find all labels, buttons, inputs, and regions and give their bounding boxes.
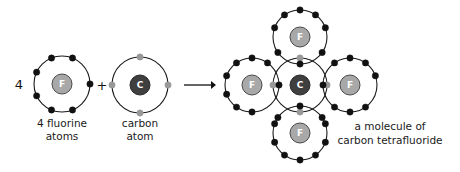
product-fluorine-electron-bottom [322, 121, 328, 127]
product-fluorine-electron-bottom [271, 121, 277, 127]
fluorine-caption-line2: atoms [46, 130, 79, 142]
product-fluorine-electron-right [362, 60, 368, 66]
shared-fluorine-electron-bottom [297, 103, 303, 109]
fluorine-nucleus-label: F [59, 79, 65, 89]
product-fluorine-electron-right [331, 60, 337, 66]
carbon-caption-line2: atom [126, 130, 153, 142]
fluorine-valence-electron [87, 81, 93, 87]
product-caption-line2: carbon tetrafluoride [337, 134, 442, 146]
carbon-valence-electron [137, 54, 143, 60]
fluorine-nucleus-label: F [249, 80, 255, 90]
chemistry-diagram-svg: 4 F 4 fluorine atoms + C carbon atom FFF… [0, 0, 460, 172]
fluorine-nucleus-label: F [297, 128, 303, 138]
carbon-valence-electron [137, 110, 143, 116]
shared-carbon-electron [270, 82, 276, 88]
product-fluorine-electron-bottom [297, 157, 303, 163]
carbon-nucleus-label: C [297, 80, 304, 90]
carbon-valence-electron [165, 82, 171, 88]
product-fluorine-electron-left [223, 91, 229, 97]
product-fluorine-electron-top [312, 12, 318, 18]
shared-fluorine-electron-top [297, 61, 303, 67]
plus-sign: + [97, 78, 108, 93]
product-fluorine-electron-left [233, 60, 239, 66]
product-fluorine-electron-left [249, 55, 255, 61]
shared-carbon-electron [297, 109, 303, 115]
product-fluorine-electron-left [264, 60, 270, 66]
product-fluorine-electron-top [275, 49, 281, 55]
product-fluorine-electron-right [362, 104, 368, 110]
diagram-canvas: 4 F 4 fluorine atoms + C carbon atom FFF… [0, 0, 460, 172]
fluorine-nucleus-label: F [297, 32, 303, 42]
product-fluorine-electron-top [322, 25, 328, 31]
product-fluorine-electron-bottom [312, 152, 318, 158]
shared-fluorine-electron-left [276, 82, 282, 88]
fluorine-nucleus-label: F [347, 80, 353, 90]
product-fluorine-electron-top [271, 25, 277, 31]
fluorine-valence-electron [69, 55, 75, 61]
product-fluorine-electron-bottom [322, 139, 328, 145]
fluorine-valence-electron [48, 107, 54, 113]
fluorine-valence-electron [33, 93, 39, 99]
fluorine-valence-electron [48, 55, 54, 61]
fluorine-valence-electron [69, 107, 75, 113]
product-fluorine-electron-bottom [319, 114, 325, 120]
product-fluorine-electron-left [249, 109, 255, 115]
product-fluorine-electron-left [233, 104, 239, 110]
shared-fluorine-electron-right [320, 82, 326, 88]
product-fluorine-electron-right [347, 109, 353, 115]
carbon-nucleus-label: C [137, 80, 144, 90]
product-fluorine-electron-right [372, 73, 378, 79]
fluorine-caption-line1: 4 fluorine [37, 117, 87, 129]
product-fluorine-electron-bottom [271, 139, 277, 145]
product-fluorine-electron-top [319, 49, 325, 55]
product-fluorine-electron-bottom [281, 152, 287, 158]
product-fluorine-electron-left [223, 73, 229, 79]
carbon-valence-electron [109, 82, 115, 88]
carbon-caption-line1: carbon [122, 117, 158, 129]
product-fluorine-electron-right [347, 55, 353, 61]
shared-carbon-electron [297, 55, 303, 61]
reaction-coefficient: 4 [15, 77, 23, 92]
fluorine-valence-electron [33, 69, 39, 75]
product-fluorine-electron-bottom [275, 114, 281, 120]
product-fluorine-electron-top [297, 7, 303, 13]
product-caption-line1: a molecule of [354, 120, 425, 132]
product-fluorine-electron-top [281, 12, 287, 18]
product-fluorine-electron-right [331, 104, 337, 110]
